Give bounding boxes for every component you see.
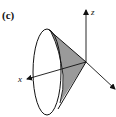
y-axis <box>86 62 115 89</box>
z-axis-label: z <box>90 7 95 17</box>
cone-diagram: (c) z x <box>0 0 116 117</box>
cone-base-ellipse <box>33 29 61 115</box>
x-axis-label: x <box>17 74 22 84</box>
panel-label: (c) <box>2 9 15 22</box>
